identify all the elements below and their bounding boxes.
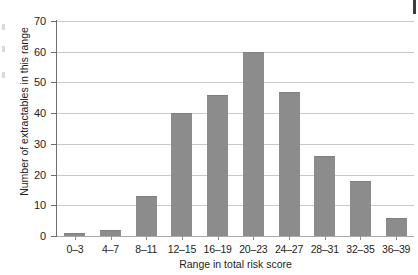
bar — [207, 95, 228, 236]
scan-artifact-left-c — [2, 72, 5, 78]
x-tick-mark-7 — [325, 236, 326, 240]
y-tick-label-60: 60 — [34, 47, 46, 58]
y-tick-label-40: 40 — [34, 108, 46, 119]
y-tick-label-50: 50 — [34, 77, 46, 88]
x-tick-mark-9 — [396, 236, 397, 240]
bar — [314, 156, 335, 236]
x-tick-mark-6 — [289, 236, 290, 240]
scan-artifact-left-b — [2, 46, 5, 52]
y-tick-label-30: 30 — [34, 139, 46, 150]
y-tick-label-70: 70 — [34, 16, 46, 27]
bar — [350, 181, 371, 236]
bar — [243, 52, 264, 236]
y-tick-label-10: 10 — [34, 200, 46, 211]
scan-artifact-left-a — [2, 24, 5, 30]
y-tick-label-20: 20 — [34, 170, 46, 181]
y-axis-title: Number of extractables in this range — [19, 2, 30, 222]
bar — [171, 113, 192, 236]
x-tick-label-9: 36–39 — [372, 243, 418, 255]
y-tick-label-0: 0 — [40, 231, 46, 242]
x-tick-mark-2 — [146, 236, 147, 240]
scan-artifact-top-right — [413, 0, 416, 14]
bar — [386, 218, 407, 236]
x-tick-mark-5 — [253, 236, 254, 240]
x-tick-mark-8 — [360, 236, 361, 240]
bar — [136, 196, 157, 236]
bar — [279, 92, 300, 236]
x-tick-mark-4 — [218, 236, 219, 240]
bar-chart: 010203040506070 Number of extractables i… — [0, 0, 418, 275]
bars-group — [57, 21, 414, 236]
x-tick-mark-0 — [75, 236, 76, 240]
x-tick-mark-3 — [182, 236, 183, 240]
x-tick-mark-1 — [111, 236, 112, 240]
x-axis-title: Range in total risk score — [57, 258, 414, 270]
